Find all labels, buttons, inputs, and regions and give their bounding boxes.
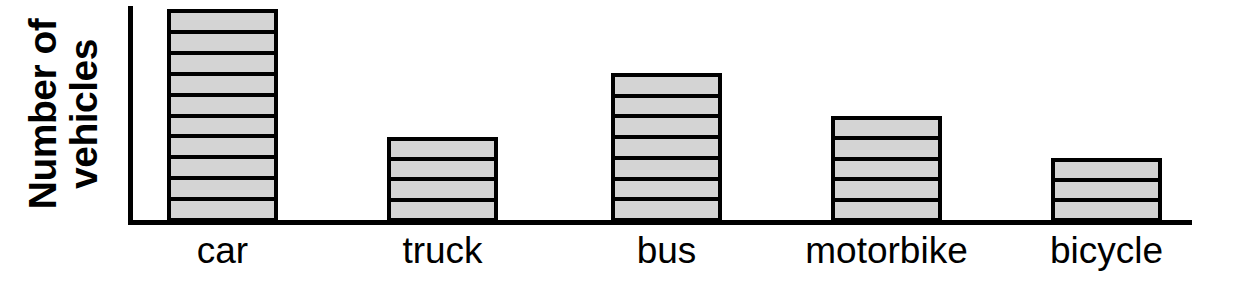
x-tick-label-car: car — [107, 224, 338, 278]
bar-segment — [835, 161, 938, 182]
bar-segment — [391, 161, 494, 181]
bar-segment — [835, 140, 938, 161]
x-tick-label-truck: truck — [327, 224, 558, 278]
bar-segment — [615, 181, 718, 202]
bar-segment — [171, 118, 274, 139]
bar-segment — [171, 138, 274, 159]
bar-segment — [835, 181, 938, 202]
bar-segment — [171, 201, 274, 218]
bar-segment — [835, 202, 938, 219]
bar-motorbike — [831, 116, 942, 223]
bar-segment — [171, 76, 274, 97]
bar-segment — [171, 97, 274, 118]
plot-area — [0, 0, 1233, 222]
x-tick-label-motorbike: motorbike — [771, 224, 1002, 278]
bar-segment — [171, 55, 274, 76]
x-tick-label-bicycle: bicycle — [991, 224, 1222, 278]
bar-segment — [391, 181, 494, 201]
x-axis-tick-labels: cartruckbusmotorbikebicycle — [0, 224, 1233, 282]
bar-segment — [391, 141, 494, 161]
bar-chart: Number of vehicles cartruckbusmotorbikeb… — [0, 0, 1233, 282]
bar-segment — [615, 139, 718, 160]
bar-segment — [615, 160, 718, 181]
bar-segment — [171, 13, 274, 34]
bar-segment — [1055, 202, 1158, 218]
bar-segment — [1055, 162, 1158, 182]
bar-segment — [835, 120, 938, 141]
bar-segment — [1055, 182, 1158, 202]
bar-segment — [615, 77, 718, 98]
bar-segment — [171, 159, 274, 180]
bar-segment — [171, 34, 274, 55]
bar-bus — [611, 73, 722, 222]
bar-bicycle — [1051, 158, 1162, 222]
bar-segment — [615, 98, 718, 119]
bar-car — [167, 9, 278, 222]
bar-segment — [391, 202, 494, 218]
x-tick-label-bus: bus — [551, 224, 782, 278]
bar-segment — [171, 180, 274, 201]
bar-segment — [615, 118, 718, 139]
bar-truck — [387, 137, 498, 222]
bar-segment — [615, 201, 718, 218]
